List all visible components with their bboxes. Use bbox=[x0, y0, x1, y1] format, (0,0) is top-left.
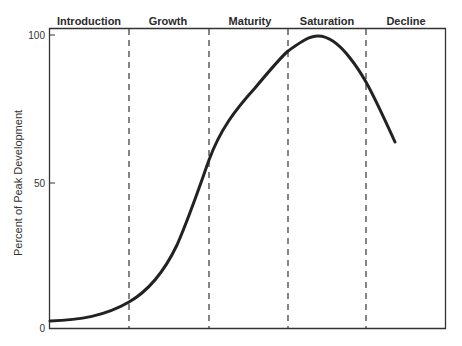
plot-frame bbox=[49, 28, 446, 329]
y-tick-0: 0 bbox=[39, 323, 45, 334]
y-axis: 100 50 0 Percent of Peak Development bbox=[12, 30, 55, 334]
y-axis-title: Percent of Peak Development bbox=[12, 110, 24, 256]
phase-label-introduction: Introduction bbox=[57, 15, 121, 27]
product-life-cycle-chart: Introduction Growth Maturity Saturation … bbox=[0, 0, 462, 346]
phase-label-growth: Growth bbox=[149, 15, 188, 27]
y-tick-50: 50 bbox=[34, 178, 46, 189]
life-cycle-curve bbox=[50, 36, 395, 321]
y-tick-100: 100 bbox=[28, 30, 45, 41]
phase-dividers bbox=[129, 29, 366, 328]
phase-label-maturity: Maturity bbox=[229, 15, 273, 27]
phase-label-decline: Decline bbox=[386, 15, 425, 27]
phase-label-saturation: Saturation bbox=[300, 15, 355, 27]
